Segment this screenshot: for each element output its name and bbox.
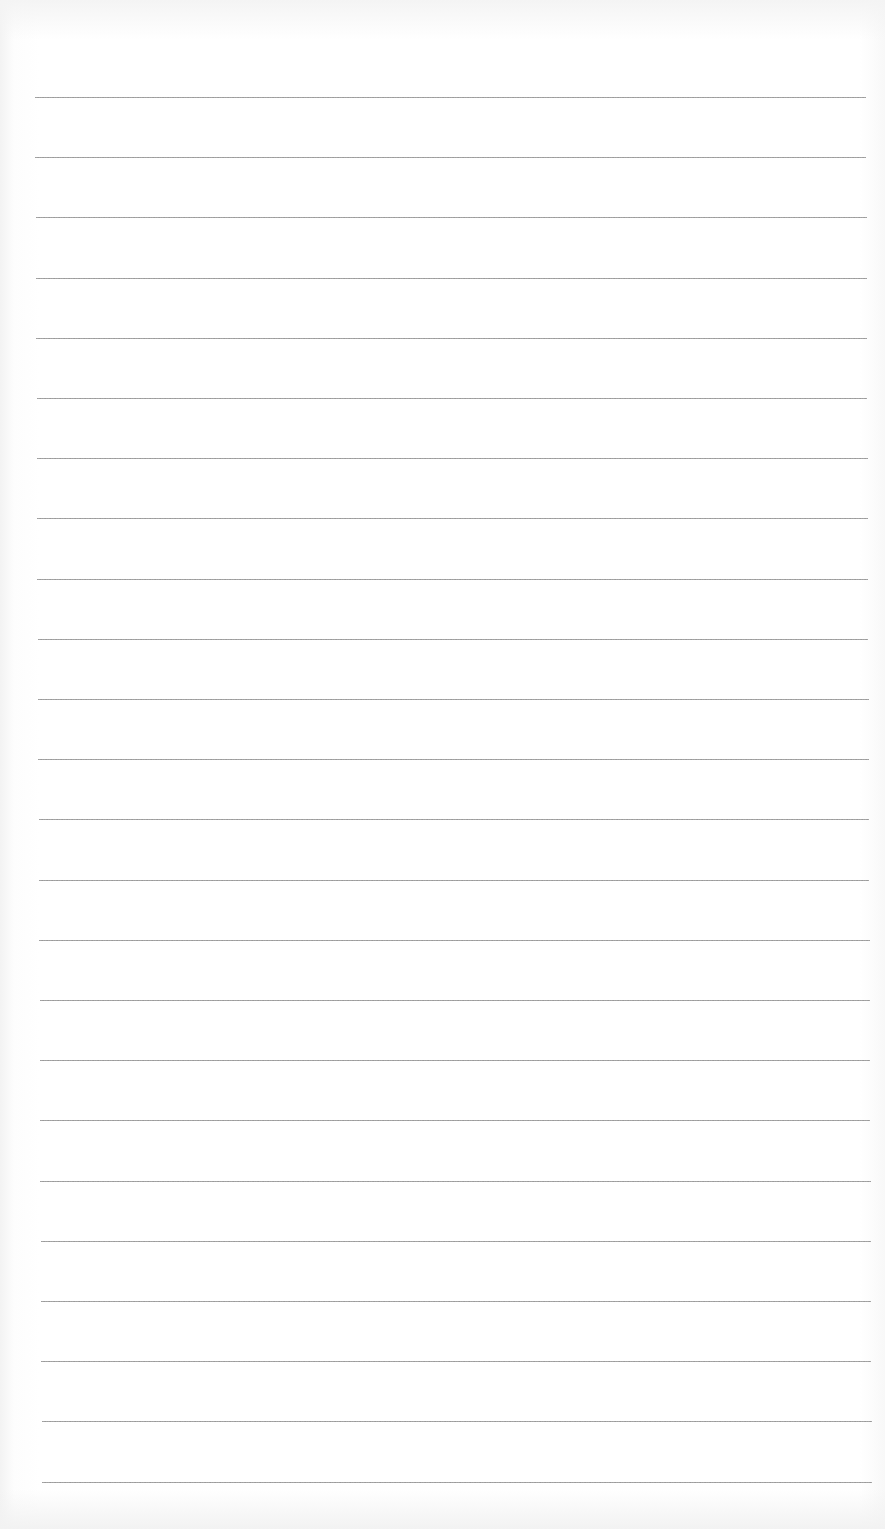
lined-paper-sheet (0, 0, 885, 1529)
ruled-line (37, 579, 868, 580)
ruled-line (38, 699, 869, 700)
ruled-line (40, 1060, 870, 1061)
ruled-line (35, 157, 866, 158)
top-edge-shadow (0, 0, 885, 40)
ruled-line (41, 1301, 871, 1302)
bottom-edge-shadow (0, 1489, 885, 1529)
ruled-line (39, 940, 869, 941)
ruled-line (36, 217, 867, 218)
ruled-line (39, 819, 869, 820)
ruled-line (40, 1181, 870, 1182)
ruled-line (41, 1241, 871, 1242)
ruled-line (40, 1000, 870, 1001)
ruled-line (35, 97, 866, 98)
ruled-line (40, 1120, 870, 1121)
ruled-line (36, 338, 867, 339)
ruled-line (37, 518, 868, 519)
ruled-line (38, 639, 869, 640)
ruled-line (37, 458, 868, 459)
ruled-line (41, 1361, 871, 1362)
ruled-line (42, 1482, 872, 1483)
ruled-line (42, 1421, 872, 1422)
ruled-line (36, 278, 867, 279)
ruled-line (39, 880, 869, 881)
ruled-line (38, 759, 869, 760)
ruled-line (37, 398, 868, 399)
